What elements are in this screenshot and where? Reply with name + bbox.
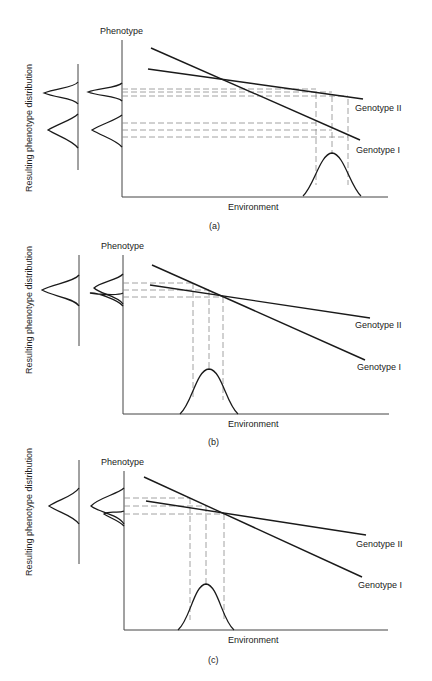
phenotype-label-c: Phenotype — [101, 458, 144, 467]
genotype-i-line — [144, 477, 362, 577]
panel-b — [42, 255, 389, 414]
genotype-i-label-b: Genotype I — [357, 363, 401, 372]
side-label-c: Resulting phenotype distribution — [25, 448, 34, 576]
resulting-distribution-upper-peak — [44, 82, 78, 104]
panel-c — [49, 460, 388, 630]
environment-distribution — [303, 153, 361, 196]
caption-a: (a) — [209, 222, 220, 231]
genotype-i-phenotype-distribution — [91, 488, 124, 524]
environment-distribution — [178, 584, 234, 630]
environment-distribution — [180, 369, 238, 414]
panel-a — [44, 40, 388, 197]
resulting-distribution-peak — [49, 488, 79, 524]
resulting-distribution-lower-peak — [48, 114, 78, 148]
genotype-ii-label-a: Genotype II — [355, 104, 402, 113]
phenotype-label-a: Phenotype — [100, 27, 143, 36]
genotype-ii-label-b: Genotype II — [355, 321, 402, 330]
genotype-i-phenotype-distribution — [94, 274, 123, 304]
environment-label-c: Environment — [228, 636, 279, 645]
side-label-b: Resulting phenotype distribution — [25, 246, 34, 374]
environment-label-b: Environment — [228, 420, 279, 429]
phenotype-label-b: Phenotype — [101, 242, 144, 251]
genotype-i-phenotype-distribution — [92, 115, 122, 147]
genotype-i-label-a: Genotype I — [356, 146, 400, 155]
genotype-ii-phenotype-distribution — [88, 83, 122, 101]
resulting-distribution-peak — [42, 275, 79, 306]
genotype-ii-line — [146, 501, 366, 535]
environment-label-a: Environment — [228, 203, 279, 212]
genotype-ii-label-c: Genotype II — [356, 540, 403, 549]
side-label-a: Resulting phenotype distribution — [25, 64, 34, 192]
caption-b: (b) — [208, 438, 219, 447]
genotype-ii-phenotype-distribution — [104, 511, 124, 526]
caption-c: (c) — [208, 656, 219, 665]
genotype-i-label-c: Genotype I — [358, 581, 402, 590]
